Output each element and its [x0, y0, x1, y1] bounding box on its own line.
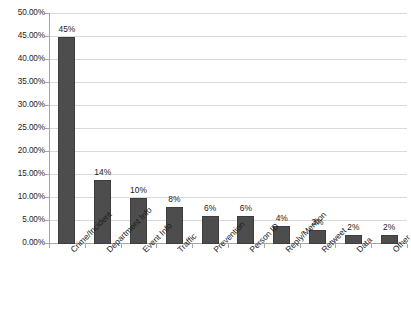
x-axis-tick-mark [192, 244, 193, 248]
x-axis-tick-mark [85, 244, 86, 248]
y-axis-tick-label: 30.00% [0, 101, 45, 109]
bar-value-label: 14% [85, 168, 121, 176]
x-axis-tick-mark [121, 244, 122, 248]
y-axis-tick-mark [45, 105, 49, 106]
bar-value-label: 6% [228, 204, 264, 212]
bar-value-label: 2% [371, 223, 407, 231]
bar-chart: 0.00%5.00%10.00%15.00%20.00%25.00%30.00%… [0, 0, 411, 315]
y-axis-tick-mark [45, 174, 49, 175]
y-axis-tick-label: 25.00% [0, 124, 45, 132]
y-axis-tick-mark [45, 36, 49, 37]
y-axis-tick-label: 45.00% [0, 32, 45, 40]
y-axis-tick-label: 15.00% [0, 170, 45, 178]
y-axis-tick-label: 10.00% [0, 193, 45, 201]
y-axis-tick-label: 50.00% [0, 9, 45, 17]
bar [202, 216, 219, 244]
x-axis-tick-mark [228, 244, 229, 248]
bar [58, 37, 75, 244]
y-axis-tick-mark [45, 82, 49, 83]
x-axis-tick-mark [371, 244, 372, 248]
y-axis-tick-mark [45, 128, 49, 129]
y-axis-tick-mark [45, 13, 49, 14]
y-axis-tick-mark [45, 220, 49, 221]
y-axis-tick-labels: 0.00%5.00%10.00%15.00%20.00%25.00%30.00%… [0, 0, 45, 250]
bar-value-label: 4% [264, 214, 300, 222]
x-axis-tick-mark [156, 244, 157, 248]
bar-value-label: 6% [192, 204, 228, 212]
x-axis-tick-mark [49, 244, 50, 248]
y-axis-tick-label: 5.00% [0, 216, 45, 224]
bar-value-label: 8% [156, 195, 192, 203]
bars-layer: 45%14%10%8%6%6%4%3%2%2% [49, 13, 407, 244]
y-axis-tick-label: 35.00% [0, 78, 45, 86]
x-axis-tick-mark [407, 244, 408, 248]
bar-value-label: 45% [49, 25, 85, 33]
bar-value-label: 10% [121, 186, 157, 194]
y-axis-tick-label: 0.00% [0, 239, 45, 247]
y-axis-tick-mark [45, 59, 49, 60]
y-axis-tick-label: 40.00% [0, 55, 45, 63]
x-axis-tick-mark [300, 244, 301, 248]
y-axis-tick-label: 20.00% [0, 147, 45, 155]
y-axis-tick-mark [45, 197, 49, 198]
x-axis-tick-mark [264, 244, 265, 248]
x-axis-category-labels: Crime/IncidentDepartment InfoEvent InfoT… [49, 244, 411, 315]
x-axis-tick-mark [335, 244, 336, 248]
y-axis-tick-mark [45, 151, 49, 152]
